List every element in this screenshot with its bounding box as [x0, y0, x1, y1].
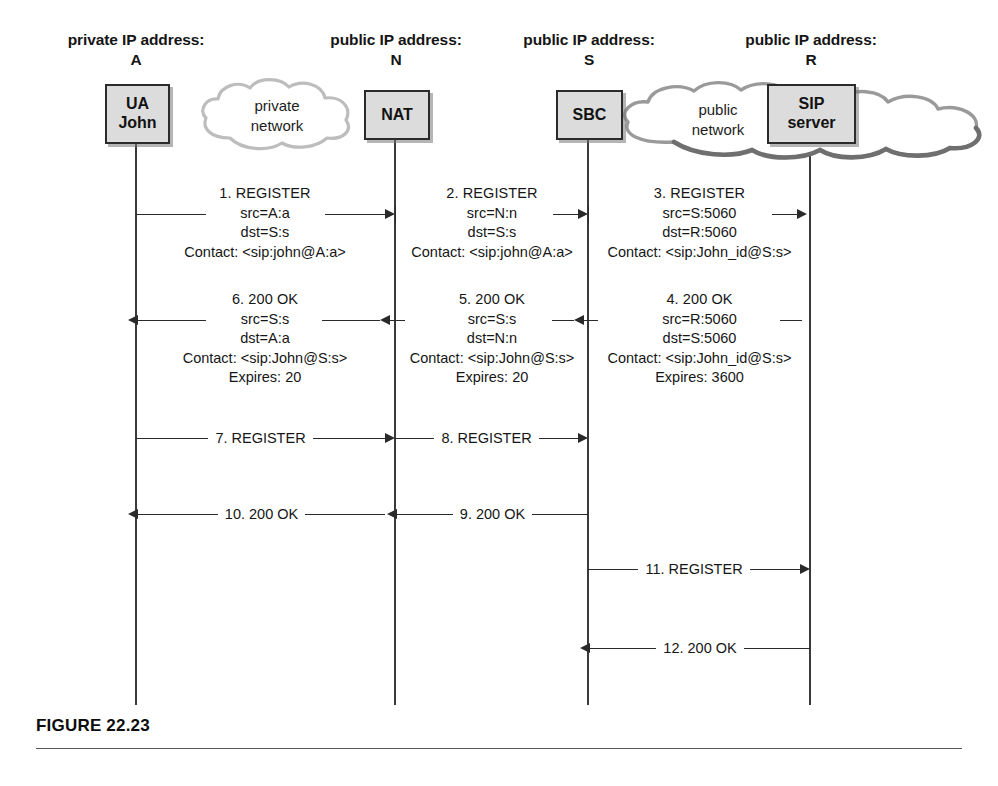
node-label-line-1: SIP	[799, 95, 825, 114]
message-dst-6: dst=A:a	[140, 329, 390, 349]
figure-caption: FIGURE 22.23	[36, 716, 150, 736]
node-box-sbc: SBC	[556, 90, 623, 140]
message-contact-5: Contact: <sip:John@S:s>	[396, 349, 588, 369]
message-block-1: 1. REGISTER src=A:a dst=S:s Contact: <si…	[140, 184, 390, 262]
address-type-label-n: public IP address:	[296, 30, 496, 50]
arrow-line-msg-11-tail	[750, 569, 800, 570]
node-label-line-2: server	[787, 114, 835, 133]
message-block-2: 2. REGISTER src=N:n dst=S:s Contact: <si…	[396, 184, 588, 262]
node-label-line-1: NAT	[381, 106, 413, 125]
message-row-11: 11. REGISTER	[588, 559, 800, 579]
public-network-label: public network	[663, 100, 773, 139]
message-contact-2: Contact: <sip:john@A:a>	[396, 243, 588, 263]
private-network-label: private network	[216, 96, 338, 135]
message-dst-2: dst=S:s	[396, 223, 588, 243]
node-label-line-1: UA	[126, 95, 149, 114]
message-title-12: 12. 200 OK	[656, 640, 743, 656]
arrow-head-msg-12	[580, 643, 590, 653]
arrow-line-msg-7	[136, 438, 208, 439]
arrow-head-msg-7	[385, 433, 395, 443]
address-type-label-a: private IP address:	[36, 30, 236, 50]
message-title-9: 9. 200 OK	[453, 506, 532, 522]
arrow-line-msg-7-tail	[313, 438, 385, 439]
message-row-8: 8. REGISTER	[395, 428, 578, 448]
message-title-1: 1. REGISTER	[140, 184, 390, 204]
message-row-10: 10. 200 OK	[138, 504, 385, 524]
message-src-1: src=A:a	[140, 204, 390, 224]
address-id-s: S	[489, 50, 689, 70]
node-box-ua-john: UA John	[105, 84, 170, 144]
message-title-2: 2. REGISTER	[396, 184, 588, 204]
arrow-head-msg-9	[387, 509, 397, 519]
arrow-head-msg-8	[578, 433, 588, 443]
message-src-4: src=R:5060	[589, 310, 810, 330]
arrow-head-msg-6	[128, 315, 138, 325]
column-header-a: private IP address: A	[36, 30, 236, 70]
arrow-head-msg-11	[800, 564, 810, 574]
message-title-3: 3. REGISTER	[589, 184, 810, 204]
lifeline-a	[135, 140, 137, 705]
column-header-s: public IP address: S	[489, 30, 689, 70]
message-expires-6: Expires: 20	[140, 368, 390, 388]
message-src-3: src=S:5060	[589, 204, 810, 224]
message-title-5: 5. 200 OK	[396, 290, 588, 310]
arrow-line-msg-9-tail	[532, 514, 588, 515]
message-dst-1: dst=S:s	[140, 223, 390, 243]
message-title-4: 4. 200 OK	[589, 290, 810, 310]
message-title-11: 11. REGISTER	[638, 561, 749, 577]
address-type-label-s: public IP address:	[489, 30, 689, 50]
arrow-line-msg-12-tail	[744, 648, 810, 649]
message-src-5: src=S:s	[396, 310, 588, 330]
message-title-7: 7. REGISTER	[208, 430, 312, 446]
arrow-line-msg-8-tail	[539, 438, 578, 439]
message-block-5: 5. 200 OK src=S:s dst=N:n Contact: <sip:…	[396, 290, 588, 388]
message-dst-4: dst=S:5060	[589, 329, 810, 349]
message-row-9: 9. 200 OK	[397, 504, 588, 524]
arrow-line-msg-10-tail	[305, 514, 385, 515]
message-block-6: 6. 200 OK src=S:s dst=A:a Contact: <sip:…	[140, 290, 390, 388]
message-contact-6: Contact: <sip:John@S:s>	[140, 349, 390, 369]
figure-canvas: private IP address: A public IP address:…	[0, 0, 998, 786]
message-contact-4: Contact: <sip:John_id@S:s>	[589, 349, 810, 369]
message-block-4: 4. 200 OK src=R:5060 dst=S:5060 Contact:…	[589, 290, 810, 388]
message-src-2: src=N:n	[396, 204, 588, 224]
figure-divider-rule	[36, 748, 962, 749]
address-id-a: A	[36, 50, 236, 70]
message-expires-4: Expires: 3600	[589, 368, 810, 388]
arrow-line-msg-9	[397, 514, 453, 515]
address-id-r: R	[711, 50, 911, 70]
message-expires-5: Expires: 20	[396, 368, 588, 388]
message-dst-5: dst=N:n	[396, 329, 588, 349]
message-dst-3: dst=R:5060	[589, 223, 810, 243]
message-src-6: src=S:s	[140, 310, 390, 330]
arrow-line-msg-11	[588, 569, 638, 570]
address-id-n: N	[296, 50, 496, 70]
arrow-line-msg-8	[395, 438, 434, 439]
node-box-sip-server: SIP server	[767, 84, 856, 144]
node-label-line-1: SBC	[573, 106, 607, 125]
address-type-label-r: public IP address:	[711, 30, 911, 50]
message-title-8: 8. REGISTER	[434, 430, 538, 446]
arrow-head-msg-10	[128, 509, 138, 519]
arrow-line-msg-10	[138, 514, 218, 515]
message-contact-1: Contact: <sip:john@A:a>	[140, 243, 390, 263]
message-row-7: 7. REGISTER	[136, 428, 385, 448]
message-title-6: 6. 200 OK	[140, 290, 390, 310]
column-header-r: public IP address: R	[711, 30, 911, 70]
arrow-line-msg-12	[590, 648, 656, 649]
node-label-line-2: John	[118, 114, 156, 133]
message-title-10: 10. 200 OK	[218, 506, 305, 522]
message-block-3: 3. REGISTER src=S:5060 dst=R:5060 Contac…	[589, 184, 810, 262]
column-header-n: public IP address: N	[296, 30, 496, 70]
node-box-nat: NAT	[364, 90, 430, 140]
message-contact-3: Contact: <sip:John_id@S:s>	[589, 243, 810, 263]
message-row-12: 12. 200 OK	[590, 638, 810, 658]
